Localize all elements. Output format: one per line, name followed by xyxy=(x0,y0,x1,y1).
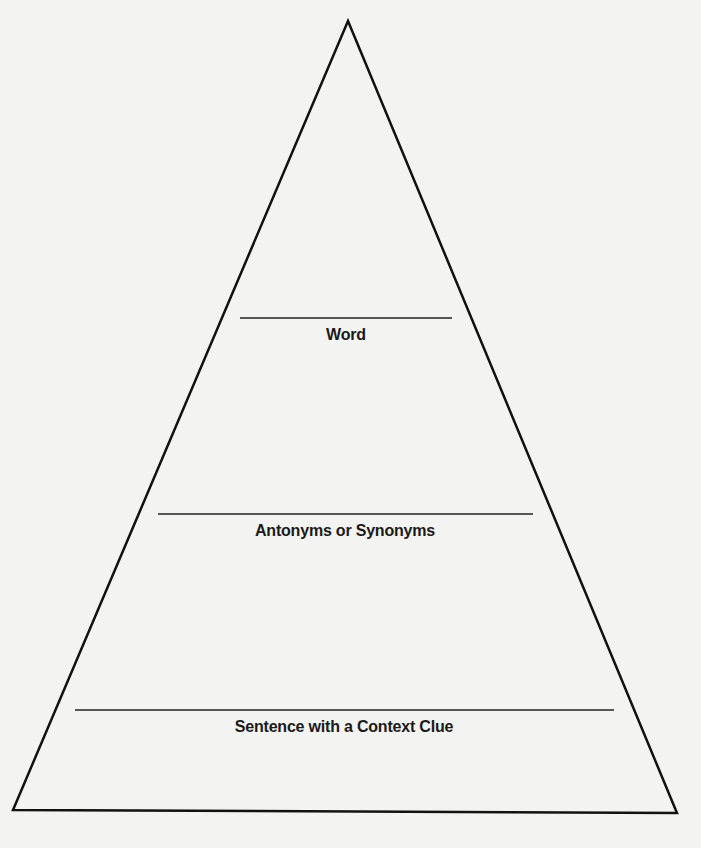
antonyms-synonyms-label: Antonyms or Synonyms xyxy=(255,522,435,540)
word-label: Word xyxy=(326,326,366,344)
pyramid-outline xyxy=(13,21,677,813)
context-sentence-label: Sentence with a Context Clue xyxy=(235,718,453,736)
